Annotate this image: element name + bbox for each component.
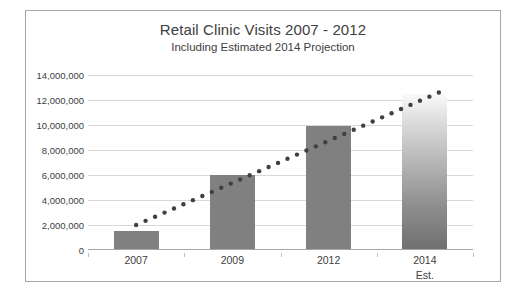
plot-area [88, 75, 473, 250]
x-axis-tick-2009: 2009 [221, 253, 244, 268]
x-axis-tick-label: 2012 [317, 253, 340, 268]
bar-2009 [210, 175, 255, 250]
y-axis-tick-label: 8,000,000 [42, 145, 84, 156]
y-axis-tick-label: 4,000,000 [42, 195, 84, 206]
bar-2012 [306, 126, 351, 250]
x-axis-tick-label: 2009 [221, 253, 244, 268]
gridline [88, 75, 473, 76]
x-axis-line [88, 249, 473, 250]
x-axis-tick-label: 2014 [413, 253, 436, 268]
y-axis-tick-label: 14,000,000 [36, 70, 84, 81]
y-axis-tick-label: 2,000,000 [42, 220, 84, 231]
x-axis-tick-mark [88, 253, 89, 257]
bar-2014 [402, 94, 447, 250]
x-axis-tick-label: 2007 [124, 253, 147, 268]
x-axis: 2007200920122014Est. [88, 253, 473, 287]
x-axis-tick-mark [184, 253, 185, 257]
y-axis-tick-label: 0 [79, 245, 84, 256]
x-axis-tick-2012: 2012 [317, 253, 340, 268]
x-axis-tick-2007: 2007 [124, 253, 147, 268]
y-axis-tick-label: 6,000,000 [42, 170, 84, 181]
chart-title-block: Retail Clinic Visits 2007 - 2012 Includi… [26, 20, 500, 55]
x-axis-tick-mark [377, 253, 378, 257]
bar-2007 [114, 231, 159, 250]
x-axis-tick-mark [281, 253, 282, 257]
y-axis: 02,000,0004,000,0006,000,0008,000,00010,… [20, 75, 84, 250]
y-axis-tick-label: 12,000,000 [36, 95, 84, 106]
x-axis-tick-sublabel: Est. [413, 268, 436, 283]
x-axis-tick-2014: 2014Est. [413, 253, 436, 283]
page-title: Retail Clinic Visits 2007 - 2012 [26, 20, 500, 39]
y-axis-tick-label: 10,000,000 [36, 120, 84, 131]
x-axis-tick-mark [473, 253, 474, 257]
chart-subtitle: Including Estimated 2014 Projection [26, 39, 500, 55]
